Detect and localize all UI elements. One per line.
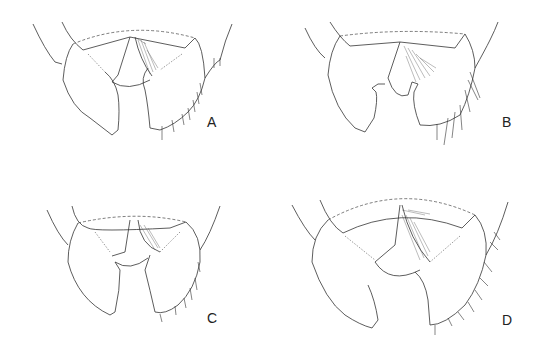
panel-d-drawing — [292, 199, 508, 335]
panel-label-d: D — [502, 312, 512, 328]
panel-label-b: B — [502, 114, 511, 130]
panel-label-c: C — [207, 310, 217, 326]
panel-label-a: A — [207, 114, 216, 130]
panel-b-drawing — [305, 22, 498, 145]
figure-drawing — [0, 0, 545, 347]
panel-c-drawing — [47, 206, 220, 322]
panel-a-drawing — [33, 22, 232, 140]
